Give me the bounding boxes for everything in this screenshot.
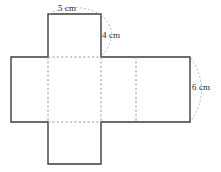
net-drawing (0, 0, 221, 172)
dimension-label-right-edge: 6 cm (192, 83, 210, 92)
dimension-label-slant-edge: 4 cm (102, 31, 120, 40)
dimension-label-top-edge: 5 cm (58, 4, 76, 13)
fold-lines (48, 57, 136, 122)
dimension-arcs (49, 8, 202, 122)
net-diagram: 5 cm 4 cm 6 cm (0, 0, 221, 172)
